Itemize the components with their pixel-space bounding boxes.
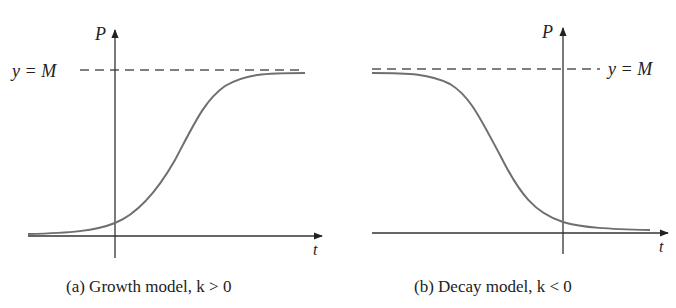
asymptote-label: y = M [10,61,57,81]
y-axis-label: P [541,22,553,42]
x-axis-label: t [659,238,664,255]
caption: (a) Growth model, k > 0 [66,277,231,296]
decay-curve [372,73,650,230]
y-axis-label: P [94,24,106,44]
growth-chart: P t y = M (a) Growth model, k > 0 [10,24,322,296]
growth-curve [28,73,305,234]
x-axis-label: t [313,241,318,258]
caption: (b) Decay model, k < 0 [414,277,572,296]
figure: P t y = M (a) Growth model, k > 0 P t y … [0,0,676,308]
asymptote-label: y = M [606,59,653,79]
decay-chart: P t y = M (b) Decay model, k < 0 [372,22,668,296]
